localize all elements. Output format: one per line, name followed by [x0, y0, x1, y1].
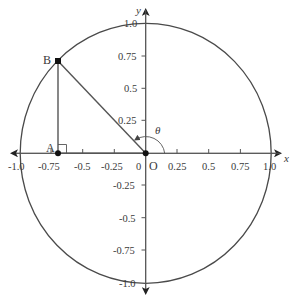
- y-tick-label: -0.25: [113, 180, 135, 191]
- y-tick-label: -0.75: [113, 245, 135, 256]
- y-axis-label: y: [135, 4, 141, 16]
- y-tick-label: 0.75: [118, 51, 136, 62]
- triangle-oab: [58, 61, 146, 153]
- x-axis-label: x: [283, 152, 289, 164]
- y-tick-label: -0.5: [119, 213, 136, 224]
- x-tick-label: 0.25: [168, 161, 186, 172]
- unit-circle-diagram: x -1.0 -0.75 -0.5 -0.25 0.25 0.5 0.75 1.…: [0, 0, 293, 302]
- y-tick-label: 0.5: [124, 83, 137, 94]
- x-tick-label: -0.75: [38, 161, 60, 172]
- x-tick-label: 0.75: [231, 161, 249, 172]
- point-b: [55, 58, 61, 64]
- point-a-label: A: [46, 141, 55, 155]
- x-tick-label: -0.25: [101, 161, 123, 172]
- y-tick-label: 0.25: [118, 115, 136, 126]
- x-tick-labels: -1.0 -0.75 -0.5 -0.25 0.25 0.5 0.75 1.0 …: [8, 161, 276, 172]
- point-origin: [143, 150, 149, 156]
- theta-label: θ: [155, 124, 161, 136]
- y-tick-label: 1.0: [124, 18, 137, 29]
- points: B A O: [43, 53, 158, 173]
- theta-arc: θ: [136, 124, 165, 153]
- x-tick-label: -1.0: [8, 161, 25, 172]
- y-tick-label: -1.0: [119, 278, 136, 289]
- x-tick-label: 0.5: [202, 161, 215, 172]
- origin-tick-label: 0: [136, 161, 141, 172]
- point-b-label: B: [43, 53, 51, 67]
- segment-ob: [58, 61, 146, 153]
- x-tick-label: -0.5: [74, 161, 91, 172]
- point-a: [55, 150, 61, 156]
- point-origin-label: O: [149, 159, 158, 173]
- x-tick-label: 1.0: [263, 161, 276, 172]
